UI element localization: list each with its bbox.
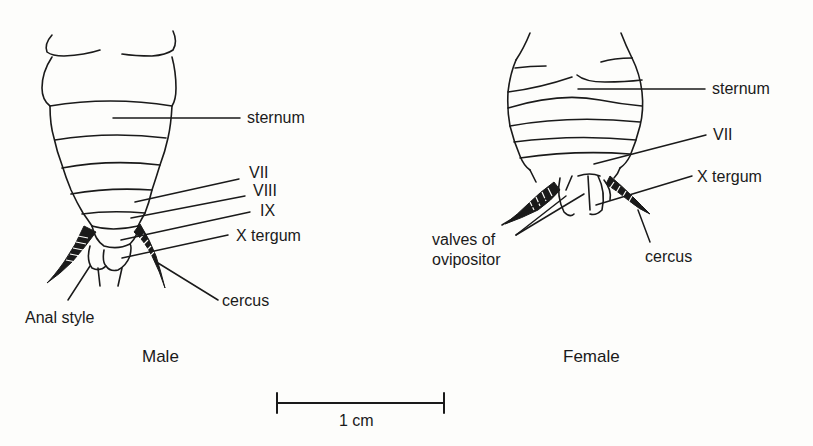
male-label-viii: VIII (253, 182, 277, 199)
male-label-anal-style: Anal style (25, 309, 94, 326)
male-label-x-tergum: X tergum (236, 227, 301, 244)
female-leader-lines (502, 89, 706, 242)
male-label-vii: VII (249, 164, 269, 181)
female-label-valves-line1: valves of (432, 231, 496, 248)
female-label-cercus: cercus (645, 248, 692, 265)
female-label-valves-line2: ovipositor (432, 251, 501, 268)
abdomen-diagram: sternum VII VIII IX X tergum cercus Anal… (0, 0, 813, 446)
female-label-sternum: sternum (712, 80, 770, 97)
male-label-ix: IX (260, 202, 275, 219)
female-label-x-tergum: X tergum (697, 168, 762, 185)
male-label-sternum: sternum (247, 109, 305, 126)
scale-bar-label: 1 cm (339, 412, 374, 429)
male-abdomen-drawing (42, 31, 176, 288)
female-label-vii: VII (713, 126, 733, 143)
scale-bar (277, 393, 444, 413)
male-label-cercus: cercus (222, 292, 269, 309)
male-caption: Male (142, 347, 179, 366)
female-caption: Female (563, 347, 620, 366)
